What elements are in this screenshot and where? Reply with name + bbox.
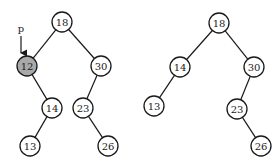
edge-23-26 xyxy=(242,117,255,137)
edge-14-13 xyxy=(160,75,175,97)
node-label: 26 xyxy=(102,141,115,152)
node-label: 12 xyxy=(21,61,34,72)
node-18: 18 xyxy=(52,12,72,32)
edge-18-30 xyxy=(225,31,248,59)
node-label: 13 xyxy=(148,101,161,112)
node-label: 14 xyxy=(46,103,59,114)
node-30: 30 xyxy=(91,56,111,76)
tree-before: 18123014231326p xyxy=(17,12,118,156)
node-13: 13 xyxy=(144,96,164,116)
node-30: 30 xyxy=(244,57,264,77)
node-14: 14 xyxy=(42,98,62,118)
edge-18-14 xyxy=(187,30,213,59)
node-label: 14 xyxy=(174,62,187,73)
edge-18-30 xyxy=(69,29,95,58)
edge-30-23 xyxy=(87,75,97,99)
pointer-label: p xyxy=(18,23,24,34)
node-label: 26 xyxy=(255,141,268,152)
edge-18-12 xyxy=(33,30,56,58)
node-label: 23 xyxy=(231,104,244,115)
node-label: 13 xyxy=(24,141,37,152)
node-18: 18 xyxy=(209,13,229,33)
node-26: 26 xyxy=(251,136,271,156)
node-label: 30 xyxy=(248,62,261,73)
node-26: 26 xyxy=(98,136,118,156)
node-23: 23 xyxy=(73,98,93,118)
edge-12-14 xyxy=(32,75,47,100)
node-label: 18 xyxy=(213,18,226,29)
node-14: 14 xyxy=(170,57,190,77)
tree-after: 181430132326 xyxy=(144,13,271,156)
node-12: 12 xyxy=(17,56,37,76)
node-13: 13 xyxy=(20,136,40,156)
edge-14-13 xyxy=(35,117,47,138)
node-label: 30 xyxy=(95,61,108,72)
node-label: 18 xyxy=(56,17,69,28)
edge-30-23 xyxy=(241,76,250,99)
node-23: 23 xyxy=(227,99,247,119)
edge-23-26 xyxy=(88,116,102,137)
tree-diagram: 18123014231326p181430132326 xyxy=(0,0,279,166)
node-label: 23 xyxy=(77,103,90,114)
